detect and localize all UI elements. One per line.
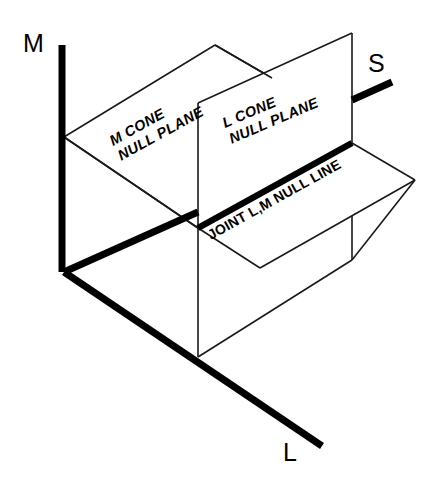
s-axis-line-near bbox=[64, 212, 198, 272]
m-axis-label: M bbox=[23, 29, 44, 57]
s-axis-line-far bbox=[352, 82, 392, 100]
figure-container: M S L M CONE NULL PLANE L CONE NULL PLAN… bbox=[0, 0, 439, 480]
l-axis-label: L bbox=[283, 438, 297, 466]
cone-null-plane-diagram: M S L M CONE NULL PLANE L CONE NULL PLAN… bbox=[0, 0, 439, 480]
s-axis-label: S bbox=[368, 49, 385, 77]
